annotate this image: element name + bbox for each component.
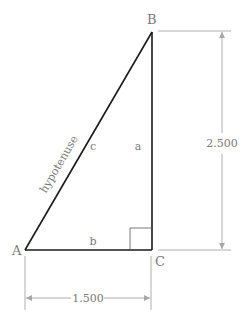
side-c-hypotenuse [25, 32, 152, 250]
side-label-a: a [135, 140, 142, 153]
horizontal-dimension: 1.500 [25, 256, 151, 310]
vertical-dimension: 2.500 [158, 31, 238, 250]
side-label-c: c [90, 140, 96, 153]
dimension-value-horizontal: 1.500 [72, 292, 104, 305]
right-angle-marker [130, 228, 152, 250]
dimension-value-vertical: 2.500 [206, 137, 238, 150]
vertex-label-b: B [147, 12, 157, 27]
triangle [25, 32, 152, 250]
vertex-label-c: C [155, 254, 165, 269]
side-label-b: b [89, 235, 96, 248]
right-triangle-diagram: 2.500 1.500 A B C a b c hypotenuse [0, 0, 243, 324]
vertex-label-a: A [11, 243, 22, 258]
